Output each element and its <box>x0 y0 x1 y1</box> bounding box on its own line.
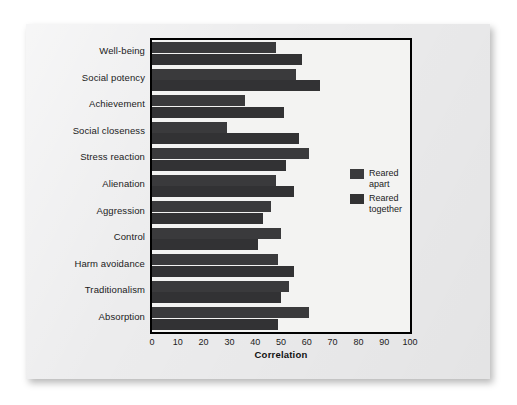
bar-social-closeness-reared-apart <box>152 122 227 133</box>
x-tick-label-30: 30 <box>224 337 234 347</box>
category-label-social-potency: Social potency <box>5 72 145 83</box>
legend-label-reared-apart: Rearedapart <box>369 168 399 189</box>
bar-social-potency-reared-together <box>152 80 320 91</box>
x-tick-label-40: 40 <box>250 337 260 347</box>
figure-root: Well-beingSocial potencyAchievementSocia… <box>0 0 517 405</box>
legend-item-reared-apart: Rearedapart <box>350 168 445 189</box>
x-tick-label-60: 60 <box>302 337 312 347</box>
bar-harm-avoidance-reared-together <box>152 266 294 277</box>
bar-achievement-reared-apart <box>152 95 245 106</box>
category-label-achievement: Achievement <box>5 98 145 109</box>
legend-item-reared-together: Rearedtogether <box>350 193 445 214</box>
bar-social-potency-reared-apart <box>152 69 296 80</box>
category-label-well-being: Well-being <box>5 45 145 56</box>
x-axis-title: Correlation <box>150 349 412 360</box>
x-tick-label-0: 0 <box>149 337 154 347</box>
legend-swatch-reared-together-icon <box>350 194 364 204</box>
category-label-control: Control <box>5 231 145 242</box>
bar-stress-reaction-reared-together <box>152 160 286 171</box>
category-label-aggression: Aggression <box>5 205 145 216</box>
x-tick-label-90: 90 <box>379 337 389 347</box>
bar-achievement-reared-together <box>152 107 284 118</box>
legend-swatch-reared-apart-icon <box>350 169 364 179</box>
bar-stress-reaction-reared-apart <box>152 148 309 159</box>
category-label-harm-avoidance: Harm avoidance <box>5 258 145 269</box>
bar-traditionalism-reared-apart <box>152 281 289 292</box>
category-label-stress-reaction: Stress reaction <box>5 151 145 162</box>
bar-well-being-reared-together <box>152 54 302 65</box>
category-label-alienation: Alienation <box>5 178 145 189</box>
bar-absorption-reared-together <box>152 319 278 330</box>
x-tick-label-70: 70 <box>328 337 338 347</box>
bar-alienation-reared-together <box>152 186 294 197</box>
category-label-social-closeness: Social closeness <box>5 125 145 136</box>
category-axis-labels: Well-beingSocial potencyAchievementSocia… <box>0 38 145 334</box>
x-tick-label-10: 10 <box>173 337 183 347</box>
chart-legend: Rearedapart Rearedtogether <box>350 168 445 218</box>
bar-absorption-reared-apart <box>152 307 309 318</box>
bar-well-being-reared-apart <box>152 42 276 53</box>
bar-harm-avoidance-reared-apart <box>152 254 278 265</box>
x-tick-label-100: 100 <box>402 337 417 347</box>
bar-control-reared-together <box>152 239 258 250</box>
bar-aggression-reared-together <box>152 213 263 224</box>
legend-label-reared-together: Rearedtogether <box>369 193 402 214</box>
x-tick-label-50: 50 <box>276 337 286 347</box>
category-label-absorption: Absorption <box>5 311 145 322</box>
x-tick-label-80: 80 <box>353 337 363 347</box>
bar-control-reared-apart <box>152 228 281 239</box>
category-label-traditionalism: Traditionalism <box>5 284 145 295</box>
bar-alienation-reared-apart <box>152 175 276 186</box>
x-tick-label-20: 20 <box>199 337 209 347</box>
bar-social-closeness-reared-together <box>152 133 299 144</box>
bar-traditionalism-reared-together <box>152 292 281 303</box>
bar-aggression-reared-apart <box>152 201 271 212</box>
